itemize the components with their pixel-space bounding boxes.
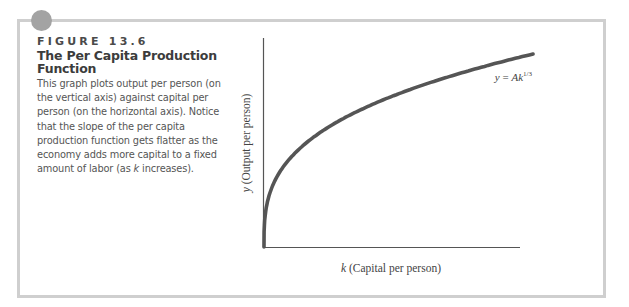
y-axis-label: y (Output per person) bbox=[240, 93, 253, 193]
curve-equation-label: y = Ak1/3 bbox=[494, 70, 533, 83]
production-curve bbox=[264, 54, 533, 247]
production-function-chart: y = Ak1/3 k (Capital per person) y (Outp… bbox=[0, 0, 629, 307]
equation-exponent: 1/3 bbox=[523, 70, 532, 78]
x-axis-label: k (Capital per person) bbox=[341, 262, 441, 275]
